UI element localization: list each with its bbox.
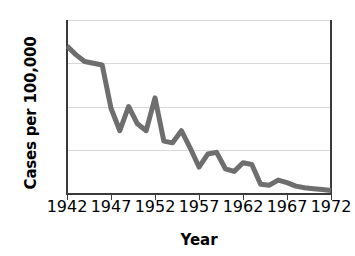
x-axis-tick: 1972 <box>301 199 355 215</box>
series-line-cases <box>66 20 332 195</box>
x-axis-tick-mark <box>199 195 200 200</box>
plot-area <box>66 20 332 195</box>
x-axis-tick-mark <box>331 195 332 200</box>
chart-title <box>0 0 350 7</box>
x-axis-label: Year <box>66 231 332 249</box>
x-axis-tick-mark <box>111 195 112 200</box>
x-axis-tick-mark <box>155 195 156 200</box>
x-axis-tick-mark <box>67 195 68 200</box>
x-axis-tick-mark <box>287 195 288 200</box>
y-axis-label: Cases per 100,000 <box>22 18 40 208</box>
x-axis-tick-mark <box>243 195 244 200</box>
